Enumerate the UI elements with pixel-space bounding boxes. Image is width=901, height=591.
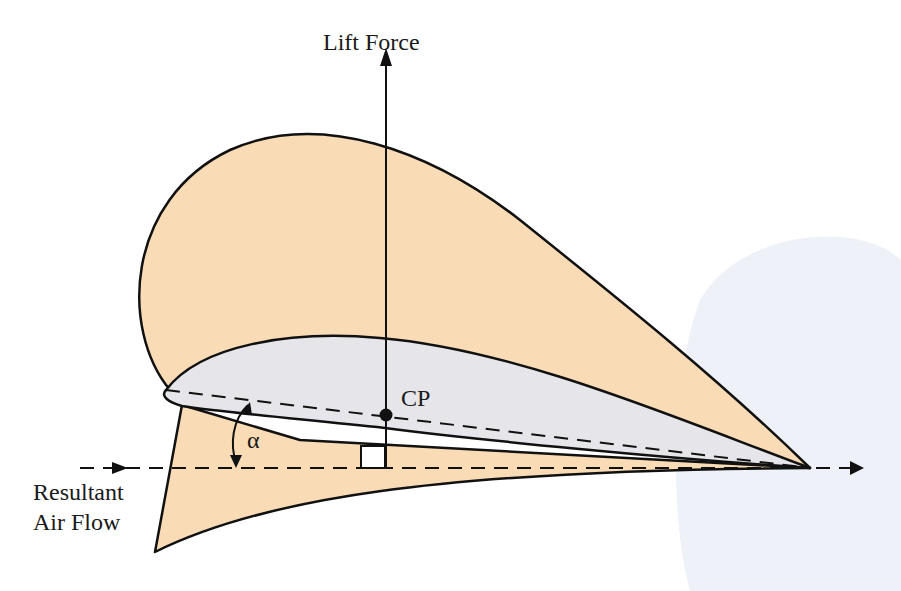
resultant-air-flow-label-line1: Resultant (33, 479, 124, 505)
air-flow-arrowhead-left (112, 462, 128, 474)
right-angle-marker (361, 446, 385, 468)
angle-of-attack-label: α (247, 427, 260, 453)
lift-force-label: Lift Force (323, 29, 420, 55)
center-of-pressure-point (380, 409, 393, 422)
center-of-pressure-label: CP (401, 385, 430, 411)
diagram-canvas: Lift Force CP α Resultant Air Flow (0, 0, 901, 591)
lift-diagram: Lift Force CP α Resultant Air Flow (0, 0, 901, 591)
resultant-air-flow-label-line2: Air Flow (33, 509, 121, 535)
